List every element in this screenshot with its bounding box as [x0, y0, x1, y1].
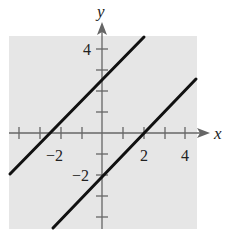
x-tick-label-neg2: −2	[46, 147, 63, 164]
y-tick-label-4: 4	[83, 41, 91, 58]
y-axis-label: y	[95, 2, 105, 21]
x-tick-label-2: 2	[140, 147, 148, 164]
y-tick-label-neg2: −2	[72, 167, 89, 184]
x-tick-label-4: 4	[181, 147, 189, 164]
coordinate-plane: y x 4 −2 −2 2 4	[0, 0, 229, 237]
x-axis-label: x	[213, 124, 222, 143]
